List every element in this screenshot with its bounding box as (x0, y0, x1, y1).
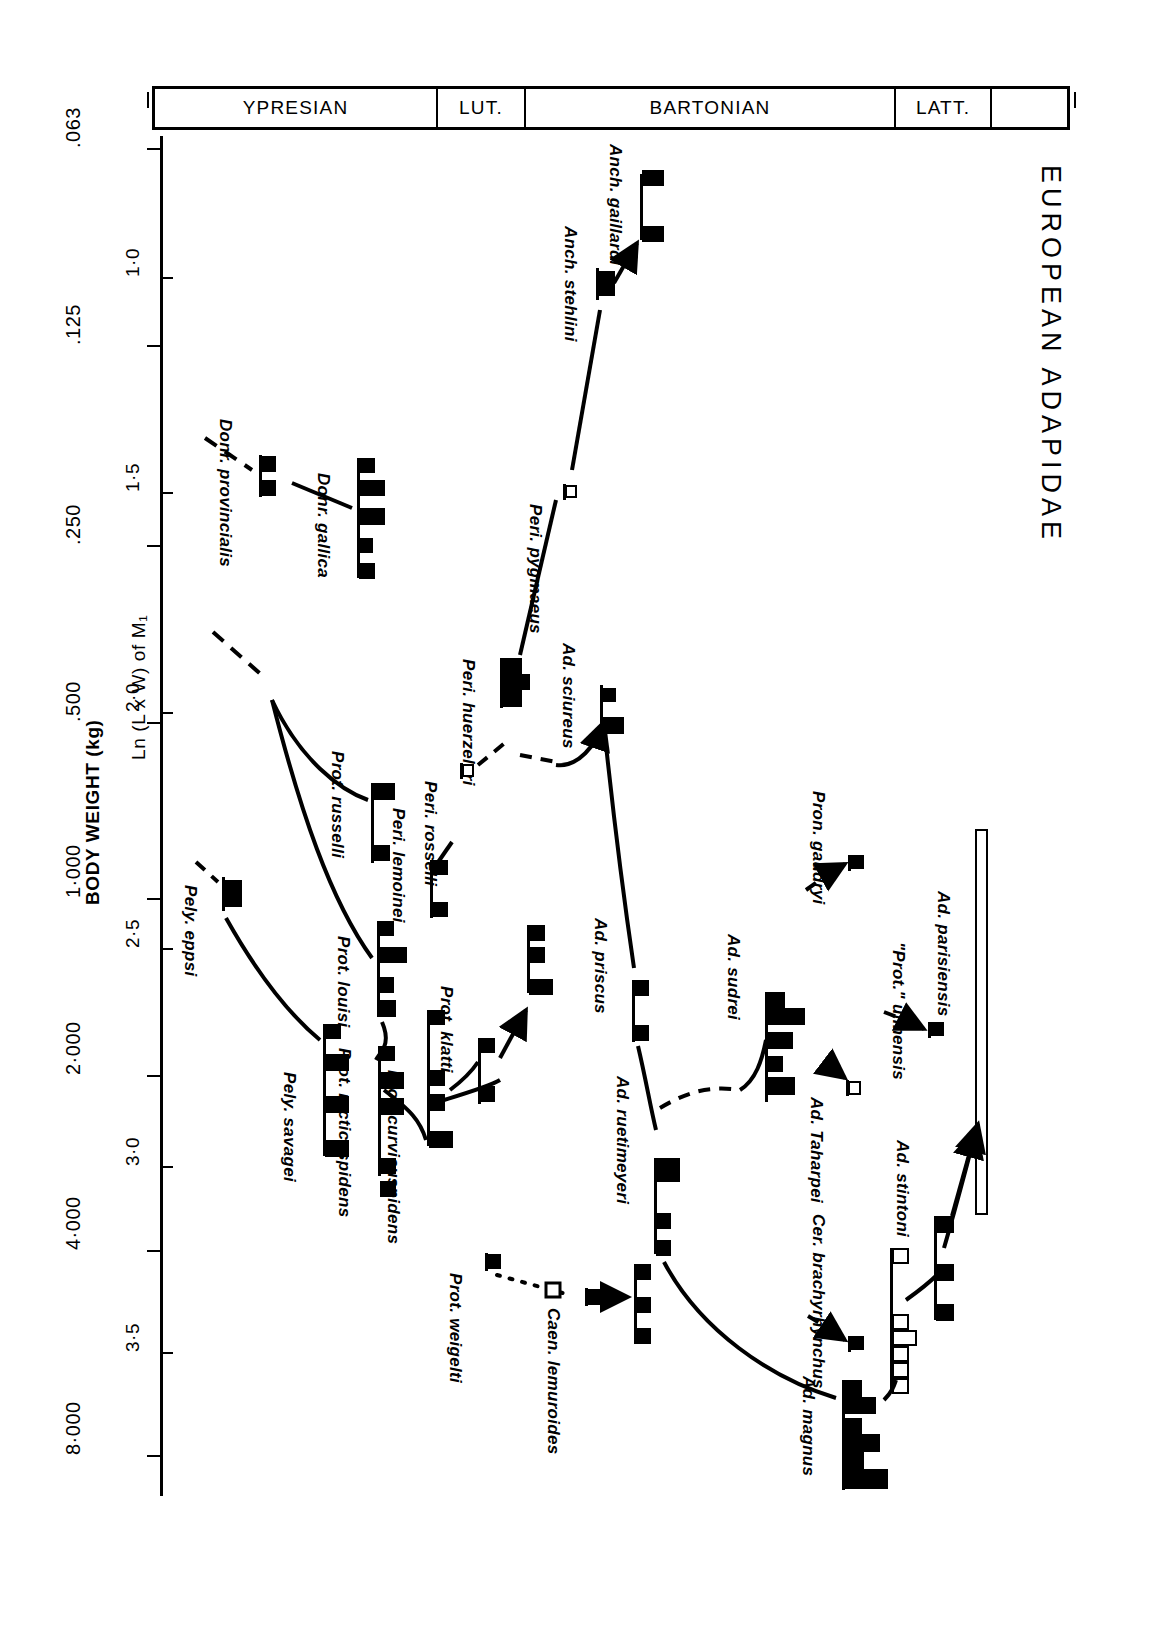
taxon-label-prot-russelli: Prot. russelli (327, 751, 347, 858)
weight-tick-label-3: .500 (62, 681, 85, 722)
connector-parisiensis-arrow (952, 1130, 976, 1216)
weight-tick-label-1: .125 (62, 304, 85, 345)
weight-tick-5 (147, 1075, 161, 1077)
taxon-label-ad-sudrei: Ad. sudrei (723, 934, 743, 1020)
ln-tick-label-5: 3·5 (122, 1323, 144, 1352)
stage-label-lutetian: LUT. (459, 97, 503, 119)
weight-tick-label-0: .063 (62, 107, 85, 148)
ln-axis-title: Ln (L x W) of M₁ (128, 615, 150, 760)
ln-tick-3 (160, 948, 173, 950)
lineage-connectors (0, 0, 1160, 1648)
connector-ruetimeyeri-sudrei-dashed (660, 1089, 740, 1108)
ad-parisiensis-range-bar (975, 829, 988, 1215)
taxon-label-peri-lemoinei: Peri. lemoinei (388, 808, 408, 923)
weight-tick-label-7: 8·000 (62, 1401, 85, 1455)
taxon-label-pron-gaudryi: Pron. gaudryi (808, 791, 828, 904)
ln-tick-label-4: 3·0 (122, 1137, 144, 1166)
weight-tick-4 (147, 898, 161, 900)
weight-tick-2 (147, 545, 161, 547)
stage-label-bartonian: BARTONIAN (650, 97, 771, 119)
weight-axis-title: BODY WEIGHT (kg) (82, 719, 104, 905)
ln-tick-label-3: 2·5 (122, 919, 144, 948)
taxon-label-prot-curvicuspidens: Prot. curvicuspidens (383, 1070, 403, 1244)
taxon-label-ad-priscus: Ad. priscus (590, 918, 610, 1014)
taxon-label-ad-parisiensis: Ad. parisiensis (933, 891, 953, 1016)
stippled-band (166, 657, 1070, 771)
taxon-label-peri-pygmaeus: Peri. pygmaeus (525, 504, 545, 634)
ln-tick-0 (160, 277, 173, 279)
weight-tick-1 (147, 345, 161, 347)
ln-tick-label-1: 1·5 (122, 463, 144, 492)
stage-cell-empty (992, 89, 1067, 127)
taxon-label-ad-taharpei: Ad. Taharpei (806, 1097, 826, 1203)
taxon-label-prot-weigelti: Prot. weigelti (445, 1273, 465, 1383)
ln-tick-label-0: 1·0 (122, 248, 144, 277)
taxon-label-ad-stintoni: Ad. stintoni (892, 1140, 912, 1237)
ln-tick-1 (160, 492, 173, 494)
ln-tick-4 (160, 1166, 173, 1168)
weight-tick-label-6: 4·000 (62, 1196, 85, 1250)
stage-label-lattorfian: LATT. (916, 97, 970, 119)
weight-tick-label-5: 2·000 (62, 1021, 85, 1075)
taxon-label-prot-klatti: Prot. klatti (436, 986, 456, 1073)
taxon-label-ad-ruetimeyeri: Ad. ruetimeyeri (612, 1076, 632, 1204)
connector-weigelti-dotted (497, 1275, 566, 1294)
stage-cell-lutetian: LUT. (438, 89, 526, 127)
weight-tick-label-2: .250 (62, 504, 85, 545)
connector-klatti-arrow (500, 1010, 526, 1058)
weight-tick-7 (147, 1455, 161, 1457)
weight-tick-6 (147, 1250, 161, 1252)
taxon-label-cer-brachyrhynchus: Cer. brachyrhynchus (808, 1214, 828, 1389)
connector-sudrei-taharpei (824, 1062, 845, 1078)
taxon-label-pely-savagei: Pely. savagei (279, 1072, 299, 1182)
connector-sudrei-curve (740, 1040, 766, 1090)
taxon-label-ad-sciureus: Ad. sciureus (558, 643, 578, 749)
stage-cell-lattorfian: LATT. (896, 89, 992, 127)
taxon-label-caen-lemuroides: Caen. lemuroides (543, 1308, 563, 1455)
page-title: EUROPEAN ADAPIDAE (1035, 165, 1066, 544)
weight-tick-0 (147, 148, 161, 150)
connector-priscus-curve (606, 745, 634, 968)
taxon-label-prot-recticuspidens: Prot. recticuspidens (334, 1048, 354, 1217)
stage-box-left-tick (147, 92, 149, 108)
taxon-label-anch-stehlini: Anch. stehlini (560, 226, 580, 342)
taxon-label-anch-gaillardi: Anch. gaillardi (605, 144, 625, 266)
vertical-axis-line (160, 136, 163, 1496)
stage-cell-bartonian: BARTONIAN (526, 89, 896, 127)
connector-priscus-ruetimeyeri (638, 1046, 656, 1130)
taxon-label-pely-eppsi: Pely. eppsi (180, 885, 200, 977)
stage-header-box: YPRESIAN LUT. BARTONIAN LATT. (152, 86, 1070, 130)
stage-box-right-tick (1074, 92, 1076, 108)
connector-eppsi-dashed (196, 862, 218, 882)
stage-label-ypresian: YPRESIAN (243, 97, 349, 119)
taxon-label-ad-magnus: Ad. magnus (798, 1376, 818, 1476)
stage-cell-ypresian: YPRESIAN (155, 89, 438, 127)
ln-tick-5 (160, 1352, 173, 1354)
taxon-label-donr-gallica: Donr. gallica (313, 473, 333, 578)
caen-lemuroides-hollow-marker (546, 1283, 560, 1297)
taxon-label-donr-provincialis: Donr. provincialis (215, 419, 235, 567)
taxon-label-prot-louisi: Prot. louisi (333, 936, 353, 1027)
connector-eppsi-savagei (226, 918, 320, 1040)
taxon-label-prot-ulmensis: "Prot." ulmensis (888, 942, 908, 1080)
